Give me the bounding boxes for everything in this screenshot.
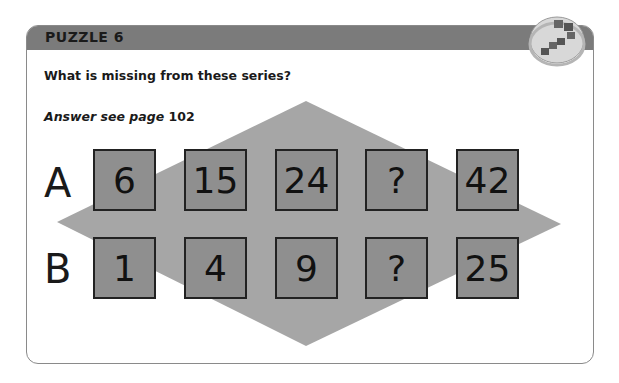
cell-a3: 24 xyxy=(275,149,338,211)
cell-b2: 4 xyxy=(184,237,247,299)
answer-page: 102 xyxy=(168,109,194,124)
row-label-a: A xyxy=(44,163,71,203)
puzzle-blocks-icon xyxy=(527,10,589,68)
cell-b3: 9 xyxy=(275,237,338,299)
cell-a1: 6 xyxy=(93,149,156,211)
question-text: What is missing from these series? xyxy=(44,68,291,83)
cell-a2: 15 xyxy=(184,149,247,211)
answer-prefix: Answer see page xyxy=(44,109,164,124)
cell-a5: 42 xyxy=(456,149,519,211)
row-label-b: B xyxy=(44,249,71,289)
answer-reference: Answer see page 102 xyxy=(44,109,195,124)
cell-a4-missing: ? xyxy=(365,149,428,211)
cell-b1: 1 xyxy=(93,237,156,299)
cell-b4-missing: ? xyxy=(365,237,428,299)
cell-b5: 25 xyxy=(456,237,519,299)
